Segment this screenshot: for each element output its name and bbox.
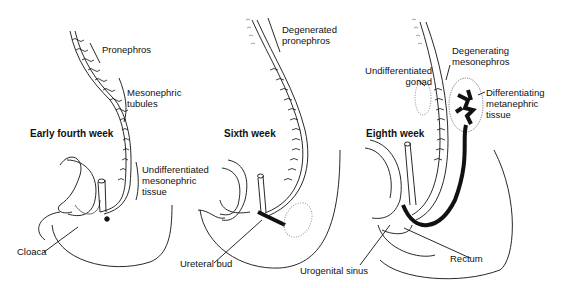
label-undifferentiated-mesonephric-tissue: Undifferentiated mesonephric tissue: [142, 164, 209, 197]
panel-sixth-week-drawing: [198, 18, 340, 268]
label-line: tissue: [142, 186, 209, 197]
label-pronephros: Pronephros: [102, 44, 151, 55]
label-mesonephric-tubules: Mesonephric tubules: [127, 87, 181, 109]
label-undifferentiated-gonad: Undifferentiated gonad: [336, 65, 432, 87]
label-line: mesonephric: [142, 175, 209, 186]
label-line: Mesonephric: [127, 87, 181, 98]
label-degenerating-mesonephros: Degenerating mesonephros: [452, 45, 510, 67]
panel-early-fourth-week-drawing: [39, 31, 172, 267]
label-line: tissue: [486, 109, 544, 120]
label-urogenital-sinus: Urogenital sinus: [300, 265, 368, 276]
label-line: Degenerated: [282, 24, 337, 35]
label-line: pronephros: [282, 35, 337, 46]
stage-title-sixth-week: Sixth week: [224, 128, 276, 139]
label-line: Undifferentiated: [336, 65, 432, 76]
label-line: Degenerating: [452, 45, 510, 56]
label-cloaca: Cloaca: [17, 246, 47, 257]
label-degenerated-pronephros: Degenerated pronephros: [282, 24, 337, 46]
stage-title-early-fourth-week: Early fourth week: [30, 128, 113, 139]
label-line: tubules: [127, 98, 181, 109]
label-line: metanephric: [486, 98, 544, 109]
stage-title-eighth-week: Eighth week: [366, 128, 424, 139]
label-rectum: Rectum: [450, 253, 483, 264]
label-line: mesonephros: [452, 56, 510, 67]
label-line: gonad: [336, 76, 432, 87]
label-ureteral-bud: Ureteral bud: [180, 258, 232, 269]
label-line: Undifferentiated: [142, 164, 209, 175]
label-differentiating-metanephric-tissue: Differentiating metanephric tissue: [486, 87, 544, 120]
label-line: Differentiating: [486, 87, 544, 98]
